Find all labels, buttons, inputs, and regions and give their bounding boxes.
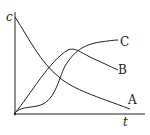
curve-a xyxy=(15,17,130,109)
curve-b-label: B xyxy=(118,63,127,77)
curve-c-label: C xyxy=(120,35,129,49)
y-axis-label: c xyxy=(6,10,13,24)
curve-a-label: A xyxy=(127,93,137,107)
origin-point xyxy=(14,113,16,115)
concentration-time-diagram: c t A B C xyxy=(0,0,150,135)
curve-b xyxy=(15,49,118,113)
x-axis-label: t xyxy=(123,115,128,129)
